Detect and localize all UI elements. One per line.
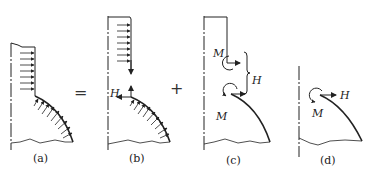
caption-b: (b) bbox=[129, 152, 145, 165]
break-line bbox=[299, 138, 362, 145]
panel-d bbox=[299, 66, 362, 157]
panel-a bbox=[11, 43, 73, 150]
pressure-arrows-radial bbox=[130, 100, 169, 138]
equals-sign: = bbox=[74, 83, 87, 102]
break-line bbox=[204, 139, 270, 144]
caption-a: (a) bbox=[33, 152, 48, 165]
dome-arc bbox=[131, 97, 170, 142]
label-H-b: H bbox=[109, 87, 120, 100]
dome-arc bbox=[231, 94, 270, 142]
plus-sign: + bbox=[170, 79, 183, 98]
pressure-arrows-vertical bbox=[20, 53, 34, 89]
bracket bbox=[244, 52, 250, 94]
caption-d: (d) bbox=[320, 154, 336, 167]
label-M-top: M bbox=[212, 47, 225, 60]
pressure-arrows-radial bbox=[34, 99, 72, 138]
label-M-bottom: M bbox=[215, 110, 228, 123]
label-H-c: H bbox=[251, 74, 262, 87]
caption-c: (c) bbox=[226, 154, 241, 167]
diagram-canvas: (a) = H (b) + bbox=[0, 0, 371, 177]
break-line bbox=[108, 140, 170, 144]
shell-wall bbox=[11, 43, 35, 96]
pressure-arrows-vertical bbox=[117, 25, 130, 61]
panel-b bbox=[108, 16, 170, 150]
label-M-d: M bbox=[311, 107, 324, 120]
dome-arc bbox=[35, 96, 73, 142]
break-line bbox=[11, 139, 73, 143]
label-H-d: H bbox=[339, 89, 350, 102]
